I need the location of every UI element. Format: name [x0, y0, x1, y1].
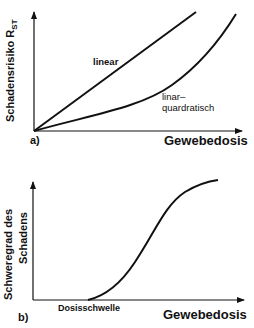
- label-linear-quadratic-2: quardratisch: [162, 102, 214, 113]
- panel-a-y-axis-label: Schadensrisiko RST: [4, 19, 19, 122]
- panel-b-tag: b): [18, 311, 28, 323]
- charts-canvas: [0, 0, 254, 328]
- sigmoid-curve: [88, 180, 218, 300]
- panel-a-x-axis-label: Gewebedosis: [164, 133, 248, 148]
- threshold-label: Dosisschwelle: [58, 303, 120, 313]
- linear-curve: [34, 12, 196, 131]
- y-label-subscript: ST: [10, 19, 19, 29]
- panel-b-y-axis-label-1: Schweregrad des: [2, 209, 14, 300]
- panel-a-axes: [34, 12, 242, 131]
- panel-b-x-axis-label: Gewebedosis: [163, 307, 247, 322]
- label-linear: linear: [93, 56, 118, 67]
- panel-a-tag: a): [30, 134, 40, 146]
- y-label-text: Schadensrisiko R: [4, 30, 16, 122]
- label-linear-quadratic-1: linar–: [162, 91, 185, 102]
- linear-quadratic-curve: [34, 14, 236, 131]
- panel-b-axes: [33, 182, 244, 300]
- panel-b-y-axis-label-2: Schadens: [17, 212, 29, 264]
